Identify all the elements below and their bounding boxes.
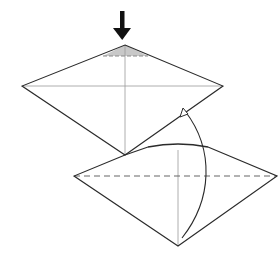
top-diamond xyxy=(22,45,223,155)
flap-top-edge xyxy=(148,144,208,147)
diamond-outline xyxy=(22,45,223,155)
origami-diagram xyxy=(0,0,278,256)
curved-fold-arrow-icon xyxy=(180,108,206,238)
diagram-svg xyxy=(0,0,278,256)
diamond-outline xyxy=(74,147,277,246)
push-down-arrow-icon xyxy=(113,11,131,40)
flap-left-edge xyxy=(125,147,148,155)
bottom-diamond xyxy=(74,144,277,246)
